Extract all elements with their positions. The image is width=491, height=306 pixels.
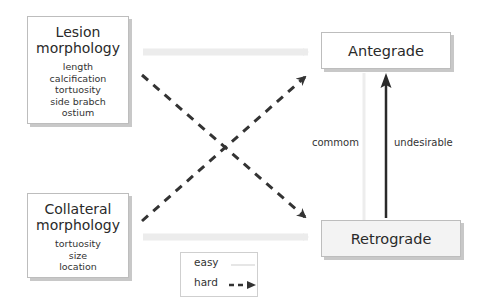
lesion-factor: side brabch [28,96,128,108]
antegrade-label: Antegrade [348,43,424,59]
legend-easy-label: easy [194,256,219,268]
antegrade-box: Antegrade [321,32,451,69]
undesirable-label: undesirable [394,137,453,148]
legend: easy hard [180,252,258,297]
collateral-factor: location [28,261,128,273]
collateral-title-line1: Collateral [28,201,128,217]
collateral-title-line2: morphology [28,217,128,233]
legend-hard-arrow-icon [229,280,257,290]
retrograde-box: Retrograde [321,220,461,257]
legend-easy-line-icon [231,263,255,267]
lesion-title-line1: Lesion [28,24,128,40]
lesion-factor: ostium [28,107,128,119]
lesion-factor: length [28,61,128,73]
legend-hard-label: hard [194,276,218,288]
collateral-factor: tortuosity [28,238,128,250]
retrograde-label: Retrograde [351,231,432,247]
lesion-morphology-box: Lesion morphology length calcification t… [27,16,129,124]
lesion-title-line2: morphology [28,40,128,56]
common-label: commom [312,137,359,148]
lesion-factor: tortuosity [28,84,128,96]
collateral-factors-list: tortuosity size location [28,238,128,273]
collateral-morphology-box: Collateral morphology tortuosity size lo… [27,193,129,278]
lesion-factors-list: length calcification tortuosity side bra… [28,61,128,119]
lesion-factor: calcification [28,73,128,85]
hard-arrow-lesion-retrograde [142,75,305,217]
hard-arrow-collateral-antegrade [142,77,305,221]
collateral-factor: size [28,250,128,262]
